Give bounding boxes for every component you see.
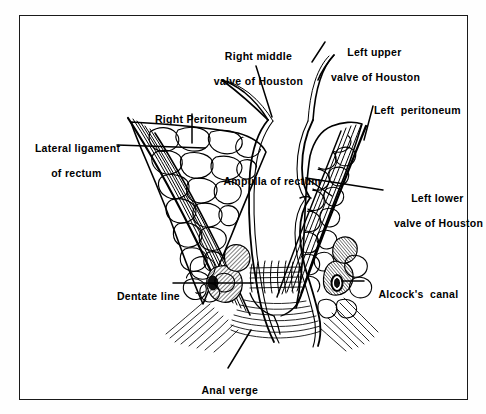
anal-canal-lining (250, 293, 302, 334)
label-left-peritoneum: Left peritoneum (361, 91, 461, 129)
columns-of-morgagni (250, 261, 302, 293)
label-line-1: Ampulla of rectum (223, 175, 320, 187)
label-anal-verge: Anal verge (189, 371, 258, 409)
label-line-1: Alcock's canal (378, 288, 458, 300)
label-line-1: Left upper (347, 46, 401, 58)
label-line-2: valve of Houston (214, 75, 303, 87)
label-dentate-line: Dentate line (104, 277, 180, 315)
label-line-1: Right middle (225, 50, 292, 62)
label-lateral-ligament-of-rectum: Lateral ligament of rectum (22, 129, 118, 192)
label-line-2: of rectum (51, 167, 102, 179)
label-alcocks-canal: Alcock's canal (366, 275, 458, 313)
label-right-middle-valve-of-houston: Right middle valve of Houston (196, 37, 308, 100)
label-left-upper-valve-of-houston: Left upper valve of Houston (318, 33, 418, 96)
label-right-peritoneum: Right Peritoneum (142, 100, 247, 138)
label-line-2: valve of Houston (394, 217, 483, 229)
figure-canvas: Right middle valve of Houston Left upper… (0, 0, 486, 414)
label-line-1: Anal verge (201, 384, 258, 396)
label-line-1: Right Peritoneum (155, 113, 247, 125)
label-left-lower-valve-of-houston: Left lower valve of Houston (381, 179, 481, 242)
label-ampulla-of-rectum: Ampulla of rectum (211, 162, 321, 200)
leader-anal-verge (228, 330, 251, 368)
label-line-1: Lateral ligament (35, 142, 120, 154)
label-line-1: Dentate line (117, 290, 180, 302)
label-line-1: Left lower (411, 192, 464, 204)
label-line-2: valve of Houston (331, 71, 420, 83)
label-line-1: Left peritoneum (374, 104, 461, 116)
